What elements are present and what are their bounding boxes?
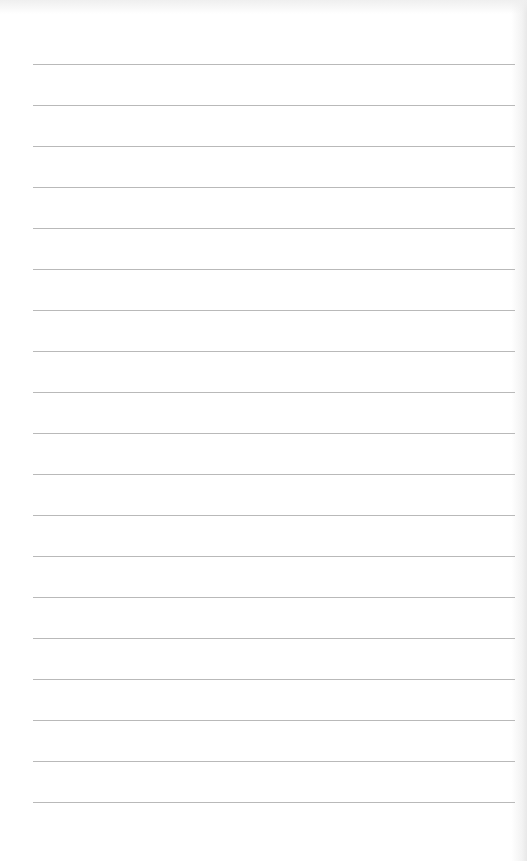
- ruled-line: [33, 556, 515, 557]
- ruled-line: [33, 310, 515, 311]
- ruled-line: [33, 351, 515, 352]
- ruled-line: [33, 228, 515, 229]
- ruled-line: [33, 269, 515, 270]
- ruled-line: [33, 679, 515, 680]
- ruled-line: [33, 761, 515, 762]
- ruled-line: [33, 474, 515, 475]
- ruled-line: [33, 515, 515, 516]
- ruled-line: [33, 638, 515, 639]
- ruled-line: [33, 720, 515, 721]
- ruled-line: [33, 64, 515, 65]
- ruled-line: [33, 187, 515, 188]
- ruled-line: [33, 597, 515, 598]
- ruled-line: [33, 433, 515, 434]
- lined-paper-sheet: [0, 0, 527, 861]
- ruled-line: [33, 802, 515, 803]
- ruled-line: [33, 105, 515, 106]
- ruled-line: [33, 146, 515, 147]
- ruled-line: [33, 392, 515, 393]
- paper-top-shadow: [0, 0, 527, 14]
